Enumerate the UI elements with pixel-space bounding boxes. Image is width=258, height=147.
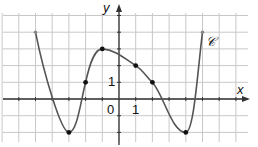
curve-label: 𝒞 bbox=[206, 34, 215, 50]
y-unit-label: 1 bbox=[108, 74, 115, 89]
curve-point bbox=[83, 80, 88, 85]
curve-point bbox=[100, 47, 105, 52]
x-axis-label: x bbox=[237, 82, 244, 97]
x-unit-label: 1 bbox=[132, 102, 139, 117]
curve-point bbox=[150, 80, 155, 85]
axes bbox=[3, 4, 250, 145]
curve-point bbox=[133, 63, 138, 68]
y-axis-label: y bbox=[103, 0, 110, 15]
curve-point bbox=[183, 130, 188, 135]
curve-point bbox=[67, 130, 72, 135]
origin-label: 0 bbox=[107, 102, 114, 117]
curve-endpoint bbox=[201, 30, 205, 34]
curve-endpoint bbox=[34, 30, 38, 34]
grid bbox=[2, 13, 248, 142]
function-graph bbox=[0, 0, 258, 147]
